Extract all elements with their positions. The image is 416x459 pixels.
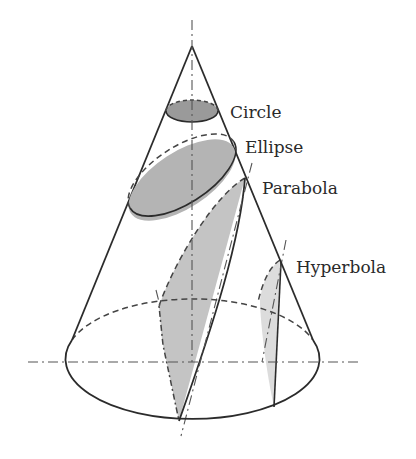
conic-sections-diagram: Circle Ellipse Parabola Hyperbola: [0, 0, 416, 459]
label-circle: Circle: [230, 102, 282, 122]
label-ellipse: Ellipse: [245, 137, 303, 157]
label-parabola: Parabola: [262, 178, 338, 198]
label-hyperbola: Hyperbola: [296, 257, 386, 277]
